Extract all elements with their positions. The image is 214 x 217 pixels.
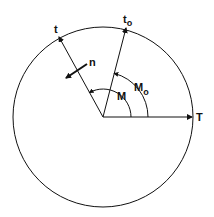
label-n: n (89, 56, 96, 68)
mean-anomaly-diagram: t to T n M Mo (0, 0, 214, 217)
motion-arrow-n (66, 64, 87, 78)
radius-t0 (103, 28, 126, 117)
label-T: T (196, 111, 203, 123)
radius-t (59, 37, 103, 117)
label-M: M (117, 90, 126, 102)
label-t0: to (123, 13, 133, 28)
label-t: t (54, 23, 58, 35)
